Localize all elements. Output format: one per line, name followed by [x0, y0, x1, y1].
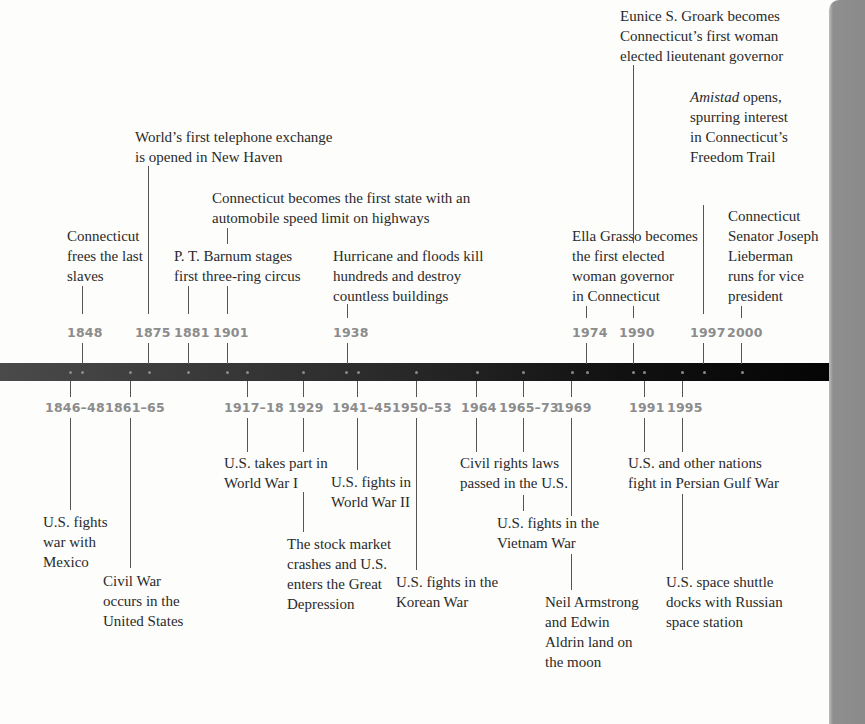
year-label-1964: 1964 [461, 400, 497, 415]
tick-dot [246, 371, 249, 374]
leader-line [644, 381, 645, 397]
event-text-1991: U.S. and other nations fight in Persian … [628, 453, 779, 493]
leader-line [586, 343, 587, 364]
event-text-1997: Amistad opens, spurring interest in Conn… [690, 87, 788, 167]
year-label-1917-18: 1917–18 [224, 400, 284, 415]
year-label-1995: 1995 [667, 400, 703, 415]
event-text-1881: P. T. Barnum stages first three-ring cir… [174, 246, 301, 286]
tick-dot [522, 371, 525, 374]
event-text-1846-48: U.S. fights war with Mexico [43, 512, 108, 572]
year-label-1997: 1997 [690, 325, 726, 340]
leader-line [227, 343, 228, 364]
leader-line [70, 381, 71, 397]
year-label-1938: 1938 [333, 325, 369, 340]
year-label-1941-45: 1941–45 [332, 400, 392, 415]
year-label-1929: 1929 [288, 400, 324, 415]
event-text-1861-65: Civil War occurs in the United States [103, 571, 183, 631]
leader-line [188, 286, 189, 314]
leader-line [416, 381, 417, 397]
leader-line [703, 205, 704, 314]
year-label-1950-53: 1950–53 [392, 400, 452, 415]
leader-line [70, 418, 71, 510]
tick-dot [703, 371, 706, 374]
leader-line [347, 304, 348, 318]
year-label-1990: 1990 [619, 325, 655, 340]
leader-line [523, 495, 524, 511]
tick-dot [148, 371, 151, 374]
film-title: Amistad [690, 89, 739, 105]
leader-line [188, 343, 189, 364]
tick-dot [681, 371, 684, 374]
leader-line [682, 418, 683, 452]
tick-dot [345, 371, 348, 374]
year-label-1861-65: 1861–65 [105, 400, 165, 415]
leader-line [247, 381, 248, 397]
event-text-1990: Eunice S. Groark becomes Connecticut’s f… [620, 6, 783, 66]
leader-line [586, 306, 587, 318]
leader-line [476, 381, 477, 397]
leader-line [130, 381, 131, 397]
year-label-1846-48: 1846–48 [45, 400, 105, 415]
leader-line [523, 381, 524, 397]
leader-line [571, 381, 572, 397]
event-text-1901: Connecticut becomes the first state with… [212, 188, 470, 228]
leader-line [303, 492, 304, 532]
leader-line [148, 166, 149, 314]
tick-dot [571, 371, 574, 374]
tick-dot [129, 371, 132, 374]
event-text-1848: Connecticut frees the last slaves [67, 226, 143, 286]
year-label-1875: 1875 [135, 325, 171, 340]
tick-dot [741, 371, 744, 374]
year-label-1881: 1881 [174, 325, 210, 340]
leader-line [633, 343, 634, 364]
leader-line [633, 306, 634, 318]
leader-line [227, 228, 228, 244]
leader-line [571, 418, 572, 516]
leader-line [416, 418, 417, 570]
leader-line [571, 554, 572, 590]
leader-line [130, 418, 131, 568]
tick-dot [69, 371, 72, 374]
leader-line [82, 343, 83, 364]
tick-dot [226, 371, 229, 374]
leader-line [357, 418, 358, 470]
event-text-1917-18: U.S. takes part in World War I [224, 453, 328, 493]
event-text-1965-73: U.S. fights in the Vietnam War [497, 513, 599, 553]
event-text-1875: World’s first telephone exchange is open… [135, 127, 332, 167]
year-label-1965-73: 1965–73 [499, 400, 559, 415]
tick-dot [643, 371, 646, 374]
event-text-1969: Neil Armstrong and Edwin Aldrin land on … [545, 592, 639, 672]
leader-line [357, 381, 358, 397]
leader-line [682, 381, 683, 397]
year-label-1848: 1848 [67, 325, 103, 340]
leader-line [148, 343, 149, 364]
leader-line [82, 286, 83, 314]
tick-dot [81, 371, 84, 374]
year-label-1974: 1974 [572, 325, 608, 340]
tick-dot [632, 371, 635, 374]
tick-dot [415, 371, 418, 374]
year-label-2000: 2000 [727, 325, 763, 340]
tick-dot [357, 371, 360, 374]
leader-line [303, 381, 304, 397]
event-text-1974: Ella Grasso becomes the first elected wo… [572, 226, 698, 306]
event-text-1941-45: U.S. fights in World War II [331, 472, 411, 512]
leader-line [227, 286, 228, 314]
event-text-2000: Connecticut Senator Joseph Lieberman run… [728, 206, 818, 306]
leader-line [644, 418, 645, 452]
tick-dot [476, 371, 479, 374]
year-label-1991: 1991 [629, 400, 665, 415]
leader-line [347, 343, 348, 364]
page-edge [829, 0, 865, 724]
leader-line [703, 343, 704, 364]
leader-line [476, 418, 477, 452]
event-text-1964: Civil rights laws passed in the U.S. [460, 453, 568, 493]
event-text-1950-53: U.S. fights in the Korean War [396, 572, 498, 612]
leader-line [633, 65, 634, 243]
leader-line [682, 494, 683, 570]
event-text-1938: Hurricane and floods kill hundreds and d… [333, 246, 483, 306]
leader-line [741, 343, 742, 364]
leader-line [741, 306, 742, 318]
year-label-1901: 1901 [213, 325, 249, 340]
leader-line [523, 418, 524, 452]
